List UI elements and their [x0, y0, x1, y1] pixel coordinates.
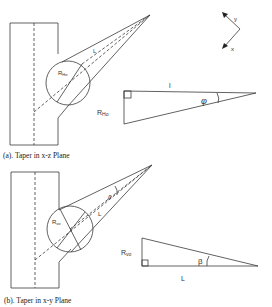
- cone-edge-lower-a: [68, 15, 150, 106]
- body-outline-b: [11, 172, 71, 288]
- circle-label-b: Rvo: [52, 219, 61, 226]
- panel-a: RHo L l RHo φ (a). Taper in x-z Plane: [3, 15, 256, 160]
- cone-label-a: L: [93, 48, 97, 54]
- caption-a: (a). Taper in x-z Plane: [3, 151, 70, 160]
- nozzle-circle-a: [46, 61, 90, 105]
- angle-arc-phi: [217, 93, 219, 103]
- triangle-side-label-b: Rvo: [121, 249, 132, 257]
- cross-line-1-b: [60, 209, 81, 250]
- axis-indicator: y x: [222, 12, 240, 52]
- cross-line-2-b: [57, 212, 85, 248]
- y-axis-arrow: [224, 14, 240, 29]
- cone-edge-upper-a: [62, 15, 150, 62]
- cone-edge-lower-b: [71, 165, 152, 252]
- circle-label-a: RHo: [58, 70, 68, 77]
- right-angle-marker-b: [142, 260, 148, 266]
- triangle-a: [124, 91, 256, 124]
- taper-diagram: RHo L l RHo φ (a). Taper in x-z Plane y …: [0, 0, 272, 307]
- right-angle-marker-a: [124, 91, 131, 98]
- axis-dashed-a: [34, 15, 150, 112]
- axis-dashed-b: [35, 165, 152, 260]
- triangle-side-label-a: RHo: [97, 109, 109, 117]
- y-axis-label: y: [234, 16, 237, 22]
- axis-dashed-a2: [82, 15, 150, 64]
- x-axis-arrow: [224, 29, 240, 47]
- cone-label-b: L: [98, 211, 102, 217]
- x-axis-label: x: [231, 46, 234, 52]
- body-outline-a: [10, 23, 68, 145]
- triangle-bottom-label-b: L: [181, 275, 185, 282]
- angle-label-beta: β: [198, 257, 203, 266]
- triangle-top-label-a: l: [169, 82, 171, 89]
- angle-arc-beta: [207, 256, 209, 266]
- angle-label-phi: φ: [201, 96, 207, 106]
- cone-angle-label-b: β: [107, 194, 112, 200]
- panel-b: Rvo L β Rvo β L (b). Taper in x-y Plane: [4, 165, 258, 305]
- caption-b: (b). Taper in x-y Plane: [4, 296, 72, 305]
